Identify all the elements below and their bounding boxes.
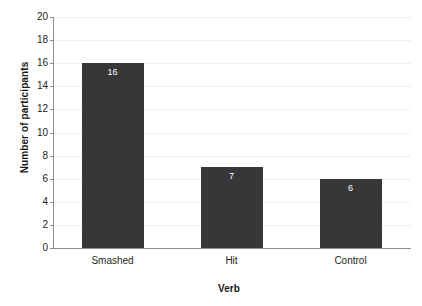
y-axis-tickmark — [50, 225, 54, 226]
y-axis-tickmark — [50, 179, 54, 180]
y-axis-tickmark — [50, 248, 54, 249]
x-axis-category-label: Control — [291, 256, 410, 266]
y-axis-tick-label: 12 — [8, 104, 48, 114]
bar-value-label: 16 — [82, 68, 144, 77]
bar-value-label: 6 — [320, 184, 382, 193]
y-axis-tick-label: 18 — [8, 35, 48, 45]
y-axis-tick-label: 8 — [8, 151, 48, 161]
y-axis-tickmark — [50, 133, 54, 134]
x-axis-category-label: Hit — [172, 256, 291, 266]
y-axis-tick-label: 0 — [8, 243, 48, 253]
y-axis-tick-label: 6 — [8, 174, 48, 184]
y-axis-tick-label: 16 — [8, 58, 48, 68]
y-axis-tick-label: 14 — [8, 81, 48, 91]
y-axis-tickmark — [50, 156, 54, 157]
y-axis-tick-label: 20 — [8, 12, 48, 22]
bar-value-label: 7 — [201, 172, 263, 181]
bar-chart: Number of participants 02468101214161820… — [0, 0, 422, 306]
y-axis-tickmark — [50, 86, 54, 87]
y-axis-tickmark — [50, 109, 54, 110]
bar: 16 — [82, 63, 144, 248]
y-axis-tickmark — [50, 202, 54, 203]
y-axis-tick-label: 4 — [8, 197, 48, 207]
x-axis-title: Verb — [48, 283, 410, 294]
y-axis-tick-label: 2 — [8, 220, 48, 230]
bar: 6 — [320, 179, 382, 248]
x-axis-category-label: Smashed — [53, 256, 172, 266]
y-axis-title: Number of participants — [19, 18, 30, 218]
bar: 7 — [201, 167, 263, 248]
gridline — [54, 40, 411, 41]
gridline — [54, 17, 411, 18]
y-axis-tickmark — [50, 40, 54, 41]
y-axis-tickmark — [50, 17, 54, 18]
y-axis-tick-label: 10 — [8, 128, 48, 138]
y-axis-tickmark — [50, 63, 54, 64]
